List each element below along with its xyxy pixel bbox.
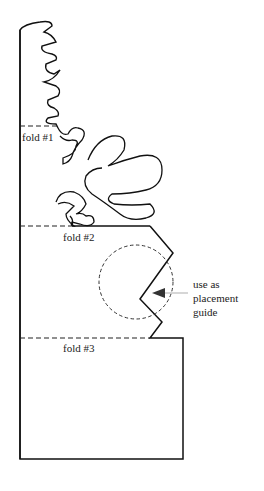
curl-lower	[56, 192, 94, 226]
guide-line-3: guide	[193, 305, 238, 319]
pattern-diagram	[0, 0, 264, 491]
placement-circle	[99, 245, 173, 319]
arrow-head-icon	[152, 288, 165, 298]
fold-label-2: fold #2	[63, 231, 94, 244]
pattern-side-and-bottom	[20, 30, 183, 459]
fold-label-3: fold #3	[63, 342, 94, 355]
guide-line-2: placement	[193, 291, 238, 305]
fold-label-1: fold #1	[22, 131, 53, 144]
placement-guide-note: use as placement guide	[193, 277, 238, 319]
curl-upper	[58, 128, 84, 164]
guide-line-1: use as	[193, 277, 238, 291]
curl-wave	[85, 136, 162, 220]
pattern-outline	[20, 22, 60, 460]
